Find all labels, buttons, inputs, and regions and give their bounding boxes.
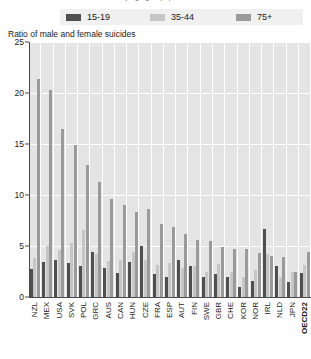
x-tick-label-text: NOR <box>252 302 260 320</box>
bar-group <box>115 42 127 297</box>
y-tick-label: 5 <box>19 241 24 251</box>
x-tick-label-text: SVK <box>68 302 76 318</box>
bar-group <box>287 42 299 297</box>
x-tick-label-jpn: JPN <box>287 300 299 359</box>
x-tick-label-aut: AUT <box>176 300 188 359</box>
x-tick-label-esp: ESP <box>164 300 176 359</box>
x-tick-label-text: OECD22 <box>301 302 309 334</box>
clipped-caption: ratio of male and female suicides by age… <box>0 0 311 3</box>
legend-label: 15-19 <box>87 13 110 22</box>
y-axis-title: Ratio of male and female suicides <box>8 29 136 39</box>
y-axis-labels: 0510152025 <box>0 42 29 304</box>
x-tick-label-nor: NOR <box>250 300 262 359</box>
x-tick-label-text: SWE <box>203 302 211 320</box>
x-tick-label-text: AUS <box>105 302 113 318</box>
x-tick-label-text: POL <box>80 302 88 318</box>
bar-group <box>41 42 53 297</box>
x-tick-label-text: HUN <box>129 302 137 319</box>
bar-group <box>54 42 66 297</box>
bar-group <box>103 42 115 297</box>
bar-group <box>139 42 151 297</box>
group-separator <box>310 42 311 297</box>
bar-group <box>176 42 188 297</box>
x-tick-label-pol: POL <box>78 300 90 359</box>
x-tick-label-irl: IRL <box>262 300 274 359</box>
bar-group <box>238 42 250 297</box>
x-axis-line <box>29 297 311 298</box>
chart-legend: 15-1935-4475+ <box>60 9 303 25</box>
x-tick-label-swe: SWE <box>201 300 213 359</box>
y-tick-label: 25 <box>15 37 24 47</box>
x-tick-label-text: FRA <box>154 302 162 318</box>
bar-groups <box>29 42 311 297</box>
legend-swatch-35-44 <box>150 14 165 21</box>
x-tick-label-text: GBR <box>215 302 223 319</box>
x-tick-label-svk: SVK <box>66 300 78 359</box>
x-tick-label-che: CHE <box>225 300 237 359</box>
legend-swatch-75plus <box>236 14 251 21</box>
x-tick-label-fin: FIN <box>188 300 200 359</box>
x-tick-label-text: CAN <box>117 302 125 319</box>
x-tick-label-text: MEX <box>43 302 51 319</box>
bar-group <box>250 42 262 297</box>
bar-group <box>90 42 102 297</box>
bar-group <box>29 42 41 297</box>
bar-group <box>213 42 225 297</box>
bar-group <box>188 42 200 297</box>
bar-group <box>78 42 90 297</box>
x-tick-label-cze: CZE <box>139 300 151 359</box>
chart-screenshot: ratio of male and female suicides by age… <box>0 0 311 359</box>
x-tick-label-usa: USA <box>54 300 66 359</box>
bar-group <box>127 42 139 297</box>
bar-group <box>152 42 164 297</box>
legend-swatch-15-19 <box>66 14 81 21</box>
bar-group <box>201 42 213 297</box>
x-tick-label-text: NLD <box>276 302 284 318</box>
legend-item-75plus: 75+ <box>236 9 272 25</box>
y-axis-line <box>29 42 30 298</box>
x-tick-label-gbr: GBR <box>213 300 225 359</box>
x-tick-label-text: CZE <box>142 302 150 318</box>
bar-group <box>225 42 237 297</box>
x-tick-label-grc: GRC <box>90 300 102 359</box>
bar-group <box>299 42 311 297</box>
x-tick-label-text: CHE <box>227 302 235 319</box>
x-tick-label-nld: NLD <box>274 300 286 359</box>
x-tick-label-text: AUT <box>178 302 186 318</box>
bar-group <box>274 42 286 297</box>
x-tick-label-text: ESP <box>166 302 174 318</box>
legend-item-15-19: 15-19 <box>66 9 110 25</box>
y-tick-label: 20 <box>15 88 24 98</box>
legend-label: 75+ <box>257 13 272 22</box>
x-tick-label-text: JPN <box>289 302 297 317</box>
legend-label: 35-44 <box>171 13 194 22</box>
x-tick-label-nzl: NZL <box>29 300 41 359</box>
y-tick-label: 0 <box>19 292 24 302</box>
plot-area <box>29 42 311 297</box>
x-tick-label-text: KOR <box>240 302 248 319</box>
x-tick-label-hun: HUN <box>127 300 139 359</box>
x-tick-label-text: IRL <box>264 302 272 314</box>
y-tick-label: 15 <box>15 139 24 149</box>
x-tick-label-can: CAN <box>115 300 127 359</box>
x-tick-label-oecd22: OECD22 <box>299 300 311 359</box>
bar-group <box>66 42 78 297</box>
legend-item-35-44: 35-44 <box>150 9 194 25</box>
x-tick-label-text: GRC <box>92 302 100 320</box>
y-tick-label: 10 <box>15 190 24 200</box>
x-tick-label-kor: KOR <box>238 300 250 359</box>
x-tick-label-aus: AUS <box>103 300 115 359</box>
x-tick-label-text: USA <box>56 302 64 318</box>
x-axis-labels: NZLMEXUSASVKPOLGRCAUSCANHUNCZEFRAESPAUTF… <box>29 300 311 359</box>
bar-group <box>164 42 176 297</box>
x-tick-label-text: FIN <box>191 302 199 315</box>
x-tick-label-mex: MEX <box>41 300 53 359</box>
x-tick-label-text: NZL <box>31 302 39 317</box>
bar-group <box>262 42 274 297</box>
x-tick-label-fra: FRA <box>152 300 164 359</box>
plot-area-wrapper: 0510152025 NZLMEXUSASVKPOLGRCAUSCANHUNCZ… <box>0 42 311 304</box>
